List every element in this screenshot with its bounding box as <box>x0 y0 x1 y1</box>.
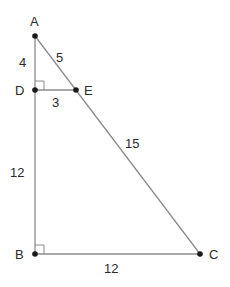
length-label-ec: 15 <box>125 136 139 151</box>
segment-ac <box>35 36 200 254</box>
point-a <box>32 33 38 39</box>
vertex-label-d: D <box>15 83 24 98</box>
vertex-label-c: C <box>209 247 218 262</box>
vertex-label-e: E <box>84 83 93 98</box>
triangle-diagram: A D E B C 4 5 3 15 12 12 <box>0 0 230 287</box>
point-d <box>32 87 38 93</box>
length-label-bc: 12 <box>104 261 118 276</box>
length-label-de: 3 <box>52 95 59 110</box>
vertex-label-b: B <box>15 247 24 262</box>
length-label-ae: 5 <box>56 50 63 65</box>
length-label-db: 12 <box>10 165 24 180</box>
length-label-ad: 4 <box>19 55 26 70</box>
point-e <box>73 87 79 93</box>
vertex-label-a: A <box>30 14 39 29</box>
point-c <box>197 251 203 257</box>
point-b <box>32 251 38 257</box>
